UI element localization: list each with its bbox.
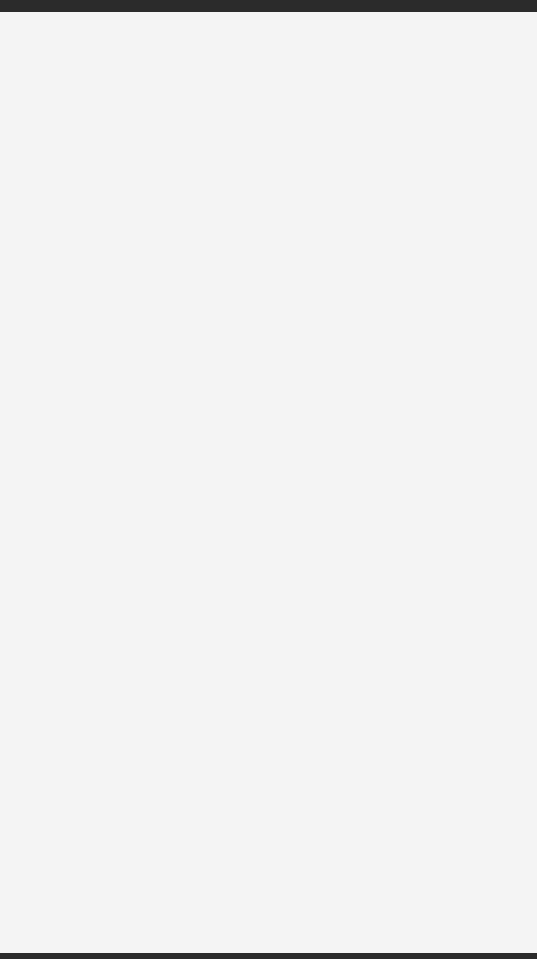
domino-grid [8, 13, 529, 953]
top-bar [0, 0, 537, 12]
bottom-bar [0, 953, 537, 959]
